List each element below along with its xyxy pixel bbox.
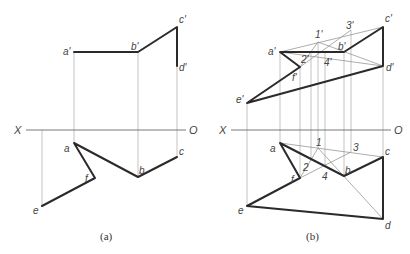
top-view-polyline-a — [42, 143, 177, 206]
label-1: 1 — [316, 137, 322, 148]
caption-a: (a) — [100, 230, 113, 243]
label-a: a — [64, 143, 70, 154]
orthographic-projection-figure: X O a' b' c' d' a b c e f (a) X O — [0, 0, 410, 254]
label-4-prime: 4' — [324, 57, 333, 68]
label-e-prime: e' — [236, 94, 245, 105]
label-4: 4 — [322, 171, 328, 182]
front-view-polyline-a — [74, 27, 177, 66]
line-1-d — [318, 148, 383, 219]
axis-x-label-a: X — [13, 124, 22, 136]
label-c: c — [385, 146, 390, 157]
label-d: d — [385, 220, 391, 231]
label-b-prime: b' — [338, 41, 347, 52]
label-c-prime: c' — [385, 13, 393, 24]
label-b: b — [139, 165, 145, 176]
label-b-prime: b' — [131, 41, 140, 52]
label-f-prime: f' — [292, 72, 298, 83]
axis-o-label-a: O — [189, 124, 198, 136]
label-c-prime: c' — [179, 14, 187, 25]
label-a-prime: a' — [63, 46, 72, 57]
label-c: c — [179, 146, 184, 157]
line-a-prime-c-prime — [280, 27, 383, 52]
label-e: e — [33, 205, 39, 216]
label-d-prime: d' — [179, 62, 188, 73]
label-a: a — [270, 143, 276, 154]
label-1-prime: 1' — [315, 29, 324, 40]
label-e: e — [238, 205, 244, 216]
label-a-prime: a' — [268, 46, 277, 57]
panel-a: X O a' b' c' d' a b c e f (a) — [13, 14, 198, 243]
label-2-prime: 2' — [300, 54, 310, 65]
label-3-prime: 3' — [346, 20, 355, 31]
label-3: 3 — [353, 142, 359, 153]
label-2: 2 — [302, 162, 309, 173]
label-b: b — [345, 165, 351, 176]
panel-b: X O a' b' c' d' e' f' 1' 2' 3' 4' a b c … — [218, 13, 403, 243]
axis-x-label-b: X — [218, 124, 227, 136]
caption-b: (b) — [306, 230, 319, 243]
label-f: f — [291, 174, 295, 185]
label-d-prime: d' — [386, 62, 395, 73]
axis-o-label-b: O — [394, 124, 403, 136]
